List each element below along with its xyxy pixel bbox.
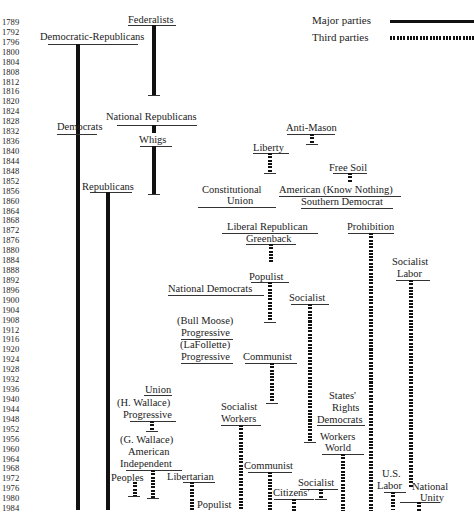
- underline-national-democrats: [168, 295, 264, 296]
- legend-major-label: Major parties: [312, 14, 371, 26]
- year-tick: 1900: [2, 295, 32, 305]
- label-lafollette-1: (LaFollette): [180, 339, 230, 351]
- label-bull-moose-1: (Bull Moose): [177, 315, 233, 327]
- year-tick: 1948: [2, 414, 32, 424]
- year-tick: 1956: [2, 434, 32, 444]
- underline-union: [144, 395, 172, 396]
- year-tick: 1968: [2, 463, 32, 473]
- underline-democratic-republicans: [48, 44, 138, 45]
- end-populist: [264, 322, 276, 323]
- year-tick: 1844: [2, 156, 32, 166]
- label-workers-world-2: World: [325, 442, 351, 454]
- year-tick: 1872: [2, 225, 32, 235]
- year-tick: 1836: [2, 136, 32, 146]
- year-tick: 1928: [2, 364, 32, 374]
- year-tick: 1876: [2, 235, 32, 245]
- label-socialist-workers-2: Workers: [221, 413, 256, 425]
- underline-us-labor: [384, 492, 406, 493]
- label-peoples: Peoples: [111, 472, 144, 484]
- bar-g-wallace: [151, 470, 155, 498]
- label-us-labor-2: Labor: [377, 480, 402, 492]
- bar-peoples: [133, 482, 137, 496]
- label-prohibition: Prohibition: [347, 221, 394, 233]
- year-tick: 1976: [2, 483, 32, 493]
- end-communist: [266, 403, 278, 404]
- year-tick: 1816: [2, 86, 32, 96]
- end-socialist: [304, 442, 316, 443]
- bar-liberty: [268, 153, 272, 173]
- label-lafollette-2: Progressive: [181, 351, 230, 363]
- year-tick: 1936: [2, 384, 32, 394]
- year-tick: 1812: [2, 77, 32, 87]
- end-whigs: [148, 194, 160, 195]
- end-anti-mason: [306, 144, 318, 145]
- year-tick: 1864: [2, 206, 32, 216]
- underline-whigs: [140, 146, 172, 147]
- underline-states-rights: [317, 425, 365, 426]
- bar-socialist: [308, 304, 312, 442]
- label-citizens: Citizens': [273, 487, 309, 499]
- label-g-wallace-2: American: [128, 446, 169, 458]
- bar-citizens: [292, 499, 296, 511]
- label-democrats: Democrats: [57, 121, 102, 133]
- year-tick: 1860: [2, 196, 32, 206]
- label-h-wallace-1: (H. Wallace): [117, 397, 170, 409]
- year-tick: 1920: [2, 344, 32, 354]
- label-southern-democrat: Southern Democrat: [301, 196, 383, 208]
- year-tick: 1820: [2, 96, 32, 106]
- year-tick: 1940: [2, 394, 32, 404]
- label-constitutional-2: Union: [227, 195, 253, 207]
- bar-communist: [270, 363, 274, 403]
- year-tick: 1800: [2, 47, 32, 57]
- label-populist-1984: Populist: [197, 499, 231, 511]
- bar-socialist-workers: [239, 425, 243, 511]
- year-tick: 1888: [2, 265, 32, 275]
- year-tick: 1912: [2, 325, 32, 335]
- bar-socialist-1976: [319, 489, 323, 499]
- bar-prohibition: [369, 233, 373, 511]
- bar-free-soil: [348, 173, 352, 183]
- label-communist: Communist: [243, 351, 292, 363]
- bar-h-wallace: [150, 421, 154, 431]
- bar-democrats: [76, 44, 80, 510]
- year-tick: 1868: [2, 215, 32, 225]
- end-federalists: [148, 95, 160, 96]
- label-whigs: Whigs: [139, 134, 166, 146]
- year-tick: 1796: [2, 37, 32, 47]
- label-communist-1968: Communist: [244, 460, 293, 472]
- year-tick: 1884: [2, 255, 32, 265]
- year-tick: 1856: [2, 186, 32, 196]
- year-tick: 1984: [2, 503, 32, 513]
- year-tick: 1944: [2, 404, 32, 414]
- year-tick: 1916: [2, 334, 32, 344]
- year-tick: 1852: [2, 176, 32, 186]
- underline-national-republicans: [117, 125, 197, 126]
- underline-southern-democrat: [301, 208, 393, 209]
- label-socialist-labor-2: Labor: [397, 268, 422, 280]
- label-socialist: Socialist: [289, 292, 325, 304]
- year-tick: 1832: [2, 126, 32, 136]
- label-american-know-nothing: American (Know Nothing): [279, 184, 393, 196]
- bar-anti-mason: [310, 134, 314, 144]
- end-socialist-1976: [315, 499, 327, 500]
- year-tick: 1804: [2, 57, 32, 67]
- year-tick: 1932: [2, 374, 32, 384]
- bar-republicans: [106, 192, 110, 510]
- year-tick: 1960: [2, 444, 32, 454]
- year-tick: 1908: [2, 315, 32, 325]
- underline-republicans: [90, 192, 132, 193]
- legend-major-line: [390, 20, 474, 23]
- bar-communist-1968: [268, 472, 272, 511]
- year-tick: 1824: [2, 106, 32, 116]
- end-g-wallace: [147, 498, 159, 499]
- label-national-republicans: National Republicans: [106, 111, 197, 123]
- label-socialist-workers-1: Socialist: [221, 401, 257, 413]
- underline-democrats: [57, 134, 97, 135]
- bar-whigs: [152, 146, 156, 194]
- label-states-rights-1: States': [329, 390, 356, 402]
- bar-socialist-labor: [409, 280, 413, 488]
- label-h-wallace-2: Progressive: [123, 409, 172, 421]
- end-peoples: [128, 496, 140, 497]
- label-liberal-republican: Liberal Republican: [227, 221, 308, 233]
